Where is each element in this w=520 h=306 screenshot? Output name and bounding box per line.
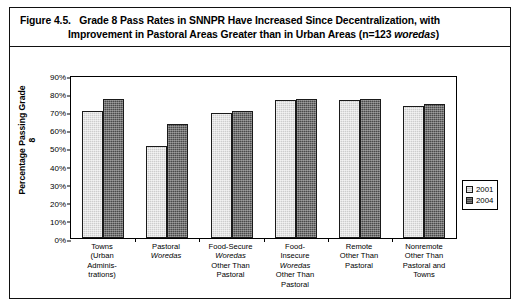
x-label-towns: Towns (Urban Adminis- trations) bbox=[70, 242, 134, 280]
legend-item-2001[interactable]: 2001 bbox=[466, 184, 493, 195]
x-label-line: Pastoral and bbox=[391, 261, 457, 270]
x-label-line: Other Than bbox=[198, 261, 263, 270]
bars-layer bbox=[71, 77, 456, 238]
y-tick-40: 40% bbox=[17, 163, 71, 172]
y-tick-50: 50% bbox=[17, 145, 71, 154]
x-label-food-secure: Food-Secure Woredas Other Than Pastoral bbox=[198, 242, 263, 280]
y-tick-80: 80% bbox=[17, 91, 71, 100]
x-label-line: Towns bbox=[391, 270, 457, 279]
x-label-line: Other Than bbox=[327, 251, 391, 260]
bar-2004-food-insecure[interactable] bbox=[296, 99, 317, 239]
y-tick-30: 30% bbox=[17, 181, 71, 190]
bar-2001-towns[interactable] bbox=[82, 111, 103, 238]
figure-title-text-2-pre: Improvement in Pastoral Areas Greater th… bbox=[68, 29, 394, 40]
bar-2004-food-secure[interactable] bbox=[232, 111, 253, 238]
figure-label: Figure 4.5. bbox=[20, 15, 71, 26]
x-label-line: Pastoral bbox=[198, 270, 263, 279]
x-label-line: Other Than bbox=[263, 270, 327, 279]
bar-2004-towns[interactable] bbox=[103, 99, 124, 239]
x-label-line: Insecure bbox=[263, 251, 327, 260]
legend-item-2004[interactable]: 2004 bbox=[466, 195, 493, 206]
bar-2001-nonremote[interactable] bbox=[403, 106, 424, 238]
y-tick-10: 10% bbox=[17, 217, 71, 226]
y-tick-90: 90% bbox=[17, 73, 71, 82]
y-tick-70: 70% bbox=[17, 109, 71, 118]
y-axis-title: Percentage Passing Grade 8 bbox=[17, 85, 37, 195]
figure-title-text-1: Grade 8 Pass Rates in SNNPR Have Increas… bbox=[79, 15, 440, 26]
x-label-line: Adminis- bbox=[70, 261, 134, 270]
bar-2004-pastoral[interactable] bbox=[167, 124, 188, 238]
bar-2001-remote[interactable] bbox=[339, 100, 360, 238]
bar-group-food-insecure bbox=[264, 77, 328, 238]
x-label-line: (Urban bbox=[70, 251, 134, 260]
chart-legend: 2001 2004 bbox=[462, 180, 498, 210]
figure-title-block: Figure 4.5. Grade 8 Pass Rates in SNNPR … bbox=[10, 8, 510, 47]
x-axis-labels: Towns (Urban Adminis- trations) Pastoral… bbox=[70, 242, 457, 296]
x-label-line: Food-Secure bbox=[198, 242, 263, 251]
bar-2001-pastoral[interactable] bbox=[146, 146, 167, 238]
x-label-line: Other Than bbox=[391, 251, 457, 260]
x-label-nonremote: Nonremote Other Than Pastoral and Towns bbox=[391, 242, 457, 280]
figure-title-woredas-italic: woredas bbox=[394, 29, 435, 40]
x-label-line: Food- bbox=[263, 242, 327, 251]
y-tick-mark bbox=[67, 240, 71, 241]
x-label-line: Towns bbox=[70, 242, 134, 251]
chart-plot-area: Percentage Passing Grade 8 0% 10% 20% 30… bbox=[10, 52, 512, 298]
bar-group-nonremote bbox=[392, 77, 456, 238]
figure-title-line-1: Figure 4.5. Grade 8 Pass Rates in SNNPR … bbox=[20, 14, 500, 28]
legend-label-2004: 2004 bbox=[476, 196, 493, 205]
x-label-pastoral: Pastoral Woredas bbox=[134, 242, 198, 261]
chart-axes: 0% 10% 20% 30% 40% 50% 60% 70% 80% 90% bbox=[70, 76, 457, 239]
x-label-line: trations) bbox=[70, 270, 134, 279]
y-tick-0: 0% bbox=[17, 236, 71, 245]
bar-group-pastoral bbox=[135, 77, 199, 238]
x-label-line: Pastoral bbox=[134, 242, 198, 251]
x-label-line-italic: Woredas bbox=[198, 251, 263, 260]
x-label-line: Pastoral bbox=[327, 261, 391, 270]
x-label-line: Nonremote bbox=[391, 242, 457, 251]
bar-2001-food-secure[interactable] bbox=[211, 113, 232, 238]
x-label-line-italic: Woredas bbox=[134, 251, 198, 260]
bar-2001-food-insecure[interactable] bbox=[275, 100, 296, 238]
legend-swatch-2004 bbox=[466, 197, 473, 204]
figure-title-text-2-post: ) bbox=[436, 29, 439, 40]
y-tick-60: 60% bbox=[17, 127, 71, 136]
figure-title-line-2: Improvement in Pastoral Areas Greater th… bbox=[20, 28, 500, 42]
bar-group-remote bbox=[328, 77, 392, 238]
x-label-remote: Remote Other Than Pastoral bbox=[327, 242, 391, 270]
legend-swatch-2001 bbox=[466, 186, 473, 193]
bar-2004-nonremote[interactable] bbox=[424, 104, 445, 238]
x-label-line: Pastoral bbox=[263, 280, 327, 289]
bar-2004-remote[interactable] bbox=[360, 99, 381, 239]
bar-group-towns bbox=[71, 77, 135, 238]
x-label-line: Remote bbox=[327, 242, 391, 251]
y-tick-20: 20% bbox=[17, 199, 71, 208]
figure-frame: Figure 4.5. Grade 8 Pass Rates in SNNPR … bbox=[9, 7, 511, 299]
x-label-food-insecure: Food- Insecure Woredas Other Than Pastor… bbox=[263, 242, 327, 289]
legend-label-2001: 2001 bbox=[476, 185, 493, 194]
x-label-line-italic: Woredas bbox=[263, 261, 327, 270]
bar-group-food-secure bbox=[199, 77, 264, 238]
